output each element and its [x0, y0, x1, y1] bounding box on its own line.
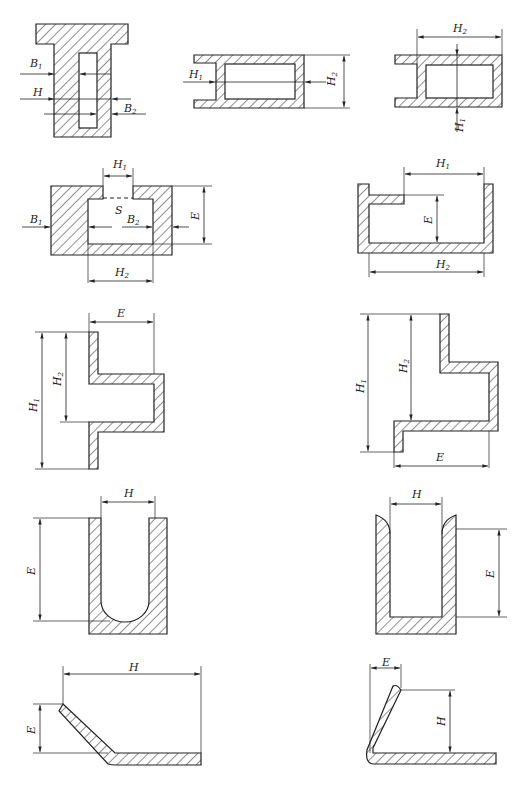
label-b2: B2 [123, 102, 137, 116]
label-b2: B2 [126, 213, 140, 227]
panel-box-with-opening: H1 S B1 B2 E H2 [22, 158, 212, 283]
label-h2: H2 [452, 22, 468, 36]
label-h1: H1 [354, 379, 368, 394]
label-e: E [25, 567, 38, 576]
label-e: E [116, 307, 125, 320]
label-h2: H2 [435, 258, 451, 272]
label-h1: H1 [27, 398, 41, 413]
label-h2: H2 [51, 371, 65, 387]
label-h1: H1 [188, 68, 203, 82]
label-e: E [189, 212, 202, 221]
panel-channel-with-ledge: H1 E H2 [358, 157, 493, 277]
label-e: E [381, 656, 390, 669]
label-e: E [422, 216, 435, 225]
panel-z-bend-left: E H2 H1 [27, 307, 164, 469]
diagram-canvas: B1 H B2 H1 H2 H2 H1 [0, 0, 523, 788]
panel-angled-flange: H E [25, 661, 201, 765]
label-s: S [115, 204, 123, 217]
panel-bent-flange: E H [367, 656, 496, 764]
label-h: H [435, 716, 448, 727]
panel-u-square-bottom: H E [376, 488, 507, 634]
label-h1: H1 [435, 157, 450, 171]
label-e: E [435, 451, 444, 464]
label-e: E [484, 570, 497, 579]
label-h2: H2 [114, 266, 130, 280]
panel-e-channel-right: H2 H1 [395, 22, 502, 133]
label-b1: B1 [29, 57, 43, 71]
label-h1: H1 [453, 118, 467, 133]
label-h1: H1 [112, 158, 127, 172]
label-b1: B1 [29, 213, 43, 227]
panel-u-round-bottom: H E [25, 487, 167, 634]
label-h2: H2 [325, 71, 339, 87]
panel-e-channel-left: H1 H2 [183, 55, 350, 108]
panel-z-bend-right: H1 H2 E [354, 314, 498, 468]
label-h: H [128, 661, 139, 674]
panel-t-profile-slot: B1 H B2 [20, 24, 146, 137]
label-h: H [123, 487, 134, 500]
label-h2: H2 [397, 358, 411, 374]
label-e: E [25, 726, 38, 735]
label-h: H [32, 86, 43, 99]
label-h: H [411, 488, 422, 501]
